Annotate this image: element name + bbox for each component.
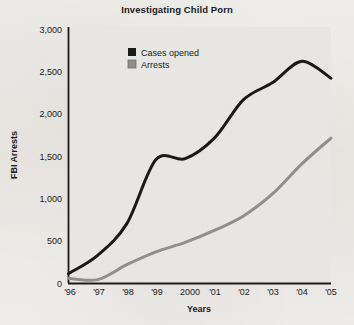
x-axis-title: Years [187,304,211,314]
legend-swatch-arrests [128,60,136,68]
x-tick-label: '01 [209,287,221,297]
y-axis-title: FBI Arrests [9,131,19,179]
x-tick-label: '05 [325,287,337,297]
x-tick-label: '99 [151,287,163,297]
x-tick-label: '97 [93,287,105,297]
y-tick-label: 500 [47,236,62,246]
legend-label-arrests: Arrests [141,60,170,70]
chart-figure: Investigating Child Porn 0 500 1,000 1,5… [0,0,354,325]
x-tick-label: '03 [267,287,279,297]
y-tick-label: 2,500 [39,67,62,77]
x-tick-label: '02 [238,287,250,297]
x-tick-label: '96 [64,287,76,297]
x-tick-label: '98 [122,287,134,297]
legend-swatch-cases-opened [128,48,136,56]
legend-label-cases-opened: Cases opened [141,48,199,58]
x-tick-label: 2000 [180,287,200,297]
y-tick-label: 2,000 [39,109,62,119]
chart-plot-area: 0 500 1,000 1,500 2,000 2,500 3,000 '96 … [0,0,354,325]
y-axis-tick-labels: 0 500 1,000 1,500 2,000 2,500 3,000 [39,25,62,289]
y-tick-label: 1,500 [39,152,62,162]
x-axis-tick-labels: '96 '97 '98 '99 2000 '01 '02 '03 '04 '05 [64,287,337,297]
y-tick-label: 3,000 [39,25,62,35]
x-tick-label: '04 [296,287,308,297]
y-tick-label: 1,000 [39,194,62,204]
y-tick-label: 0 [57,279,62,289]
